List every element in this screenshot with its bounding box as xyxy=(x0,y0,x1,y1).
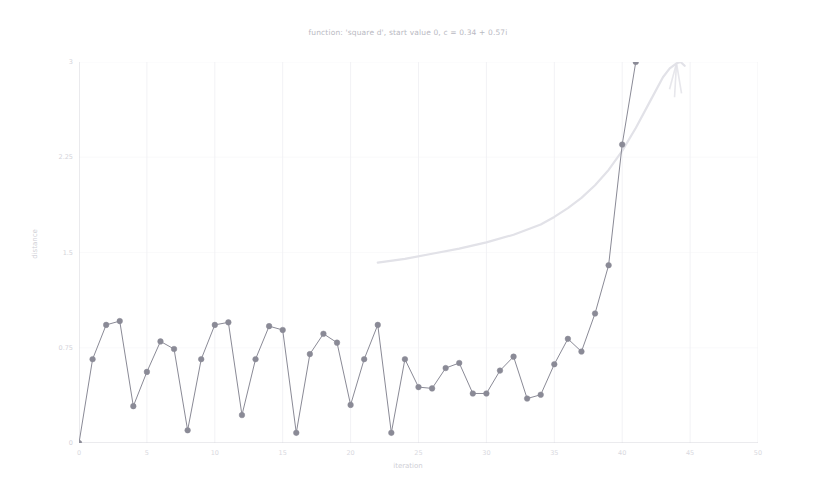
y-tick-label: 1.5 xyxy=(47,249,73,257)
y-tick-label: 0.75 xyxy=(47,344,73,352)
chart-title: function: 'square d', start value 0, c =… xyxy=(0,28,816,37)
x-tick-label: 45 xyxy=(678,449,702,457)
y-tick-label: 2.25 xyxy=(47,153,73,161)
y-tick-label: 0 xyxy=(47,439,73,447)
x-tick-label: 40 xyxy=(610,449,634,457)
y-axis-label: distance xyxy=(31,204,39,284)
y-tick-label: 3 xyxy=(47,58,73,66)
x-tick-label: 0 xyxy=(67,449,91,457)
x-tick-label: 35 xyxy=(542,449,566,457)
series-divergence-envelope xyxy=(378,62,685,263)
x-tick-label: 15 xyxy=(271,449,295,457)
x-tick-label: 20 xyxy=(339,449,363,457)
chart-figure: function: 'square d', start value 0, c =… xyxy=(0,0,816,495)
x-tick-label: 5 xyxy=(135,449,159,457)
x-axis-label: iteration xyxy=(0,462,816,470)
x-tick-label: 30 xyxy=(474,449,498,457)
x-tick-label: 10 xyxy=(203,449,227,457)
plot-svg xyxy=(79,62,758,443)
x-tick-label: 50 xyxy=(746,449,770,457)
x-tick-label: 25 xyxy=(407,449,431,457)
plot-area xyxy=(79,62,758,443)
